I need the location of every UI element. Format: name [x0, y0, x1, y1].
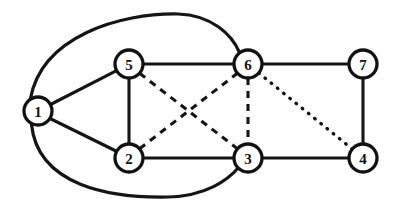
node-7-label: 7	[359, 57, 367, 73]
edge-1-5	[51, 70, 118, 104]
node-5[interactable]: 5	[115, 50, 143, 78]
node-6-label: 6	[244, 57, 252, 73]
node-6[interactable]: 6	[234, 50, 262, 78]
node-7[interactable]: 7	[349, 50, 377, 78]
node-4[interactable]: 4	[349, 144, 377, 172]
graph-figure: 1 2 3 4 5 6 7	[0, 0, 395, 203]
graph-canvas: 1 2 3 4 5 6 7	[0, 0, 395, 203]
node-3-label: 3	[244, 151, 252, 167]
node-2-label: 2	[125, 151, 133, 167]
node-4-label: 4	[359, 151, 367, 167]
edge-1-2	[50, 119, 117, 152]
node-1[interactable]: 1	[24, 97, 52, 125]
node-5-label: 5	[125, 57, 133, 73]
node-2[interactable]: 2	[115, 144, 143, 172]
node-3[interactable]: 3	[234, 144, 262, 172]
edge-6-4	[259, 73, 352, 149]
node-1-label: 1	[34, 104, 42, 120]
